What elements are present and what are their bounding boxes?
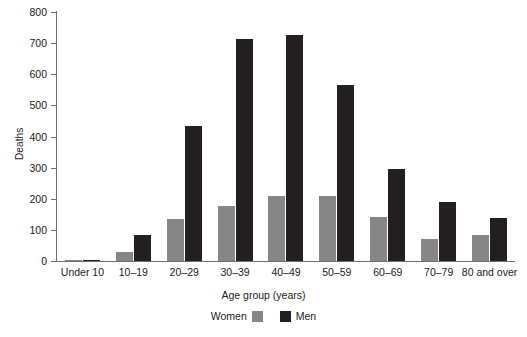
y-tick-label: 0 bbox=[13, 256, 47, 266]
y-axis-title: Deaths bbox=[14, 146, 25, 160]
y-tick-label: 600 bbox=[13, 69, 47, 79]
bar-group bbox=[464, 12, 515, 261]
bar-men bbox=[439, 202, 456, 261]
bar-women bbox=[65, 260, 82, 262]
y-tick-mark bbox=[51, 74, 56, 75]
x-axis-title: Age group (years) bbox=[0, 289, 527, 301]
y-tick-label: 700 bbox=[13, 38, 47, 48]
x-tick-label: 80 and over bbox=[460, 266, 520, 278]
chart-legend: WomenMen bbox=[0, 310, 527, 322]
y-tick-mark bbox=[51, 43, 56, 44]
y-tick-label: 400 bbox=[13, 132, 47, 142]
bar-group bbox=[57, 12, 108, 261]
bar-men bbox=[337, 85, 354, 261]
bar-men bbox=[490, 218, 507, 261]
bar-group bbox=[261, 12, 312, 261]
bar-men bbox=[236, 39, 253, 261]
y-tick-label: 300 bbox=[13, 163, 47, 173]
legend-item-men: Men bbox=[280, 310, 316, 322]
legend-swatch-women bbox=[252, 311, 263, 322]
legend-label: Men bbox=[296, 310, 316, 322]
bar-group bbox=[210, 12, 261, 261]
y-tick-mark bbox=[51, 261, 56, 262]
y-tick-label: 800 bbox=[13, 7, 47, 17]
bar-men bbox=[134, 235, 151, 261]
bar-women bbox=[319, 196, 336, 261]
bar-men bbox=[185, 126, 202, 261]
bar-women bbox=[218, 206, 235, 261]
y-tick-label: 100 bbox=[13, 225, 47, 235]
bar-women bbox=[268, 196, 285, 261]
bar-women bbox=[370, 217, 387, 261]
bar-men bbox=[388, 169, 405, 261]
plot-area bbox=[57, 12, 515, 261]
y-tick-mark bbox=[51, 105, 56, 106]
x-axis-line bbox=[56, 261, 515, 262]
bar-group bbox=[362, 12, 413, 261]
legend-label: Women bbox=[211, 310, 247, 322]
y-tick-mark bbox=[51, 137, 56, 138]
legend-swatch-men bbox=[280, 311, 291, 322]
y-tick-mark bbox=[51, 168, 56, 169]
y-tick-label: 200 bbox=[13, 194, 47, 204]
bar-chart: Deaths 0100200300400500600700800 Under 1… bbox=[0, 0, 527, 337]
y-tick-label: 500 bbox=[13, 100, 47, 110]
bar-group bbox=[159, 12, 210, 261]
bar-women bbox=[116, 252, 133, 261]
y-tick-mark bbox=[51, 199, 56, 200]
bar-men bbox=[83, 260, 100, 262]
bar-women bbox=[167, 219, 184, 261]
legend-item-women: Women bbox=[211, 310, 263, 322]
bar-group bbox=[311, 12, 362, 261]
y-tick-mark bbox=[51, 230, 56, 231]
y-tick-mark bbox=[51, 12, 56, 13]
bar-group bbox=[108, 12, 159, 261]
bar-women bbox=[472, 235, 489, 261]
bar-group bbox=[413, 12, 464, 261]
bar-men bbox=[286, 35, 303, 261]
bar-women bbox=[421, 239, 438, 261]
